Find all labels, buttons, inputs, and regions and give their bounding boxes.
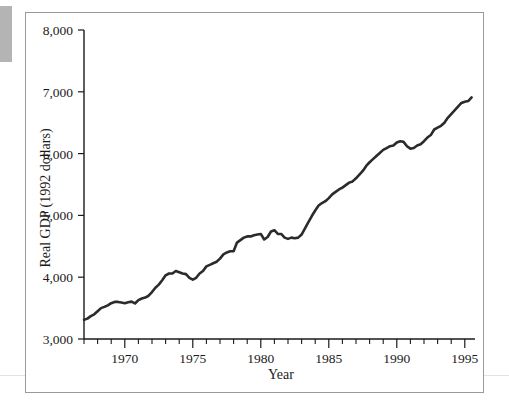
x-axis-tick-label: 1980 bbox=[247, 351, 274, 366]
x-axis-tick-labels: 197019751980198519901995 bbox=[111, 351, 478, 366]
x-axis-tick-label: 1990 bbox=[383, 351, 410, 366]
y-axis-tick-label: 3,000 bbox=[43, 332, 74, 347]
figure-frame: 3,0004,0005,0006,0007,0008,000 197019751… bbox=[25, 12, 484, 393]
x-axis-major-tick-group bbox=[125, 339, 465, 348]
x-axis-tick-label: 1995 bbox=[451, 351, 478, 366]
left-edge-gray-block bbox=[0, 6, 12, 62]
y-axis-title: Real GDP (1992 dollars) bbox=[38, 128, 54, 267]
x-axis-tick-label: 1970 bbox=[111, 351, 138, 366]
y-axis-tick-label: 7,000 bbox=[43, 85, 74, 100]
x-axis-title: Year bbox=[268, 367, 294, 382]
y-axis-tick-label: 4,000 bbox=[43, 270, 74, 285]
gdp-line-chart: 3,0004,0005,0006,0007,0008,000 197019751… bbox=[26, 13, 483, 392]
x-axis-minor-tick-group bbox=[84, 339, 451, 344]
gdp-series-line bbox=[84, 97, 472, 319]
y-axis-tick-group bbox=[78, 30, 84, 339]
y-axis-tick-label: 8,000 bbox=[43, 23, 74, 38]
x-axis-tick-label: 1975 bbox=[179, 351, 206, 366]
x-axis-tick-label: 1985 bbox=[315, 351, 342, 366]
